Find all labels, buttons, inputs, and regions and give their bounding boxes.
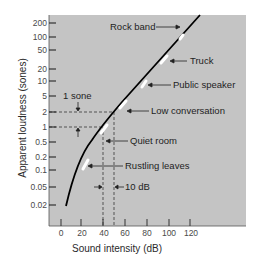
annotation-quiet-room: Quiet room — [130, 135, 177, 146]
annotation-low-conversation: Low conversation — [151, 105, 225, 116]
y-tick-label: 20 — [38, 64, 48, 74]
ten-db-label: 10 dB — [125, 181, 150, 192]
y-tick-label: 5 — [42, 91, 47, 101]
y-axis-title: Apparent loudness (sones) — [17, 58, 28, 178]
y-tick-label: 100 — [33, 32, 47, 42]
y-tick-label: 0.1 — [35, 165, 47, 175]
x-tick-label: 20 — [77, 228, 87, 238]
x-tick-label: 120 — [184, 228, 198, 238]
y-tick-label: 0.5 — [35, 137, 47, 147]
annotation-public-speaker: Public speaker — [173, 79, 235, 90]
annotation-rock-band: Rock band — [110, 21, 155, 32]
y-tick-label: 1 — [42, 122, 47, 132]
x-tick-label: 60 — [120, 228, 130, 238]
y-tick-label: 200 — [33, 18, 47, 28]
loudness-chart: 200 100 50 20 10 5 2 1 0.5 0.2 0.1 0.05 … — [0, 0, 256, 266]
x-tick-label: 80 — [142, 228, 152, 238]
plot-area — [49, 15, 246, 226]
y-tick-labels: 200 100 50 20 10 5 2 1 0.5 0.2 0.1 0.05 … — [30, 18, 47, 210]
y-tick-label: 10 — [38, 76, 48, 86]
annotation-rustling-leaves: Rustling leaves — [125, 160, 190, 171]
y-tick-label: 2 — [42, 107, 47, 117]
x-axis-title: Sound intensity (dB) — [72, 243, 162, 254]
y-tick-label: 50 — [38, 45, 48, 55]
x-tick-labels: 0 20 40 60 80 100 120 — [59, 228, 199, 238]
y-tick-label: 0.2 — [35, 152, 47, 162]
one-sone-label: 1 sone — [63, 90, 92, 101]
annotation-truck: Truck — [190, 55, 214, 66]
y-tick-label: 0.05 — [30, 182, 47, 192]
x-tick-label: 40 — [99, 228, 109, 238]
x-tick-label: 0 — [59, 228, 64, 238]
y-tick-label: 0.02 — [30, 200, 47, 210]
x-tick-label: 100 — [162, 228, 176, 238]
